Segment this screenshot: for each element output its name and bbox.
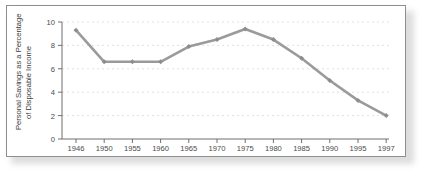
figure-frame: Personal Savings as a Percentage of Disp… xyxy=(6,5,406,157)
x-tick-label-1997: 1997 xyxy=(378,144,395,153)
x-tick-label-1970: 1970 xyxy=(209,144,226,153)
x-tick-label-1985: 1985 xyxy=(293,144,310,153)
series-line-personal-savings xyxy=(76,29,386,116)
y-tick-label-8: 8 xyxy=(51,41,55,50)
y-tick-label-2: 2 xyxy=(51,112,55,121)
line-chart: Personal Savings as a Percentage of Disp… xyxy=(7,6,405,156)
x-tick-label-1960: 1960 xyxy=(152,144,169,153)
y-tick-label-6: 6 xyxy=(51,65,55,74)
x-tick-label-1950: 1950 xyxy=(96,144,113,153)
y-tick-labels: 10 8 6 4 2 0 xyxy=(47,18,55,144)
x-tick-label-1965: 1965 xyxy=(180,144,197,153)
y-tick-label-0: 0 xyxy=(51,135,55,144)
x-tick-label-1975: 1975 xyxy=(237,144,254,153)
x-tick-label-1995: 1995 xyxy=(350,144,367,153)
y-axis-title: Personal Savings as a Percentage of Disp… xyxy=(14,13,33,130)
screenshot-root: Personal Savings as a Percentage of Disp… xyxy=(0,0,422,181)
x-tick-label-1946: 1946 xyxy=(68,144,85,153)
plot-area: Personal Savings as a Percentage of Disp… xyxy=(7,6,405,156)
y-tick-label-10: 10 xyxy=(47,18,55,27)
y-axis-title-line-1: Personal Savings as a Percentage xyxy=(14,13,23,130)
y-axis xyxy=(58,22,62,139)
x-tick-label-1955: 1955 xyxy=(124,144,141,153)
x-tick-labels: 1946 1950 1955 1960 1965 1970 1975 1980 … xyxy=(68,144,395,153)
y-axis-title-line-2: of Disposable Income xyxy=(24,46,33,119)
x-tick-label-1980: 1980 xyxy=(265,144,282,153)
series-markers xyxy=(74,27,389,119)
x-tick-label-1990: 1990 xyxy=(321,144,338,153)
data-point-1955 xyxy=(130,59,135,64)
y-tick-label-4: 4 xyxy=(51,88,55,97)
x-axis xyxy=(62,139,389,143)
